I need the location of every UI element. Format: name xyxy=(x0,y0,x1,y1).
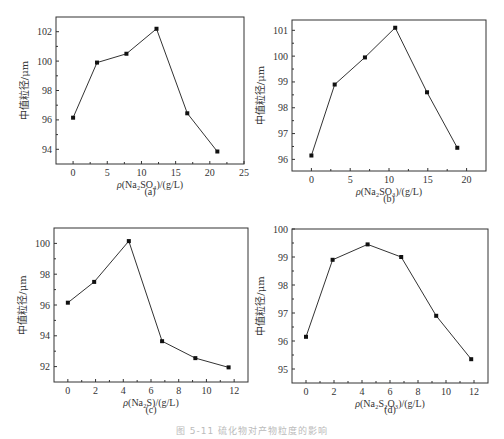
y-tick-label: 96 xyxy=(278,336,288,347)
plot-frame xyxy=(54,228,248,382)
data-point-marker xyxy=(215,150,219,154)
panel-subtitle: (d) xyxy=(384,404,396,416)
x-tick-label: 2 xyxy=(332,386,337,397)
y-tick-label: 101 xyxy=(273,25,288,36)
data-point-marker xyxy=(304,335,308,339)
y-tick-label: 98 xyxy=(278,280,288,291)
data-point-marker xyxy=(425,90,429,94)
y-tick-label: 98 xyxy=(42,85,52,96)
x-tick-label: 15 xyxy=(423,174,433,185)
y-tick-label: 100 xyxy=(273,51,288,62)
data-point-marker xyxy=(124,52,128,56)
panel-subtitle: (a) xyxy=(144,186,155,198)
plot-frame xyxy=(292,229,488,383)
x-tick-label: 6 xyxy=(388,386,393,397)
y-tick-label: 98 xyxy=(40,269,50,280)
y-axis-label: 中值粒径/μm xyxy=(18,60,30,120)
x-tick-label: 8 xyxy=(416,386,421,397)
x-tick-label: 10 xyxy=(136,167,146,178)
data-point-marker xyxy=(127,239,131,243)
data-point-marker xyxy=(193,356,197,360)
y-tick-label: 94 xyxy=(40,330,50,341)
data-point-marker xyxy=(366,242,370,246)
panel-subtitle: (c) xyxy=(145,404,156,416)
x-tick-label: 0 xyxy=(304,386,309,397)
y-tick-label: 100 xyxy=(37,56,52,67)
y-tick-label: 99 xyxy=(278,252,288,263)
data-point-marker xyxy=(185,111,189,115)
x-tick-label: 8 xyxy=(176,385,181,396)
data-point-marker xyxy=(333,83,337,87)
data-line xyxy=(68,241,229,367)
x-tick-label: 20 xyxy=(205,167,215,178)
data-line xyxy=(311,28,457,156)
x-tick-label: 10 xyxy=(384,174,394,185)
x-tick-label: 12 xyxy=(229,385,239,396)
y-tick-label: 100 xyxy=(273,224,288,235)
data-point-marker xyxy=(154,27,158,31)
data-point-marker xyxy=(71,116,75,120)
data-point-marker xyxy=(363,55,367,59)
x-tick-label: 12 xyxy=(469,386,479,397)
data-point-marker xyxy=(95,61,99,65)
y-tick-label: 97 xyxy=(278,128,288,139)
x-tick-label: 25 xyxy=(239,167,249,178)
y-tick-label: 99 xyxy=(278,76,288,87)
chart-panel-d: 0246810129596979899100中值粒径/μmρ(Na₂S₂O₃)/… xyxy=(254,224,488,417)
y-tick-label: 98 xyxy=(278,102,288,113)
x-tick-label: 10 xyxy=(441,386,451,397)
data-point-marker xyxy=(434,314,438,318)
figure-caption: 图 5-11 硫化物对产物粒度的影响 xyxy=(0,424,504,437)
x-tick-label: 20 xyxy=(462,174,472,185)
data-point-marker xyxy=(227,365,231,369)
y-tick-label: 97 xyxy=(278,308,288,319)
x-tick-label: 0 xyxy=(71,167,76,178)
x-tick-label: 4 xyxy=(360,386,365,397)
data-point-marker xyxy=(455,146,459,150)
data-point-marker xyxy=(309,154,313,158)
x-tick-label: 2 xyxy=(93,385,98,396)
y-tick-label: 94 xyxy=(42,144,52,155)
y-tick-label: 96 xyxy=(40,300,50,311)
x-tick-label: 6 xyxy=(149,385,154,396)
y-tick-label: 96 xyxy=(42,114,52,125)
chart-panel-c: 02468101292949698100中值粒径/μmρ(Na₂S)/(g/L)… xyxy=(16,228,248,416)
data-point-marker xyxy=(160,339,164,343)
y-tick-label: 92 xyxy=(40,361,50,372)
data-line xyxy=(73,29,217,152)
data-point-marker xyxy=(399,255,403,259)
y-axis-label: 中值粒径/μm xyxy=(254,276,266,336)
y-axis-label: 中值粒径/μm xyxy=(254,65,266,125)
y-tick-label: 96 xyxy=(278,154,288,165)
x-tick-label: 0 xyxy=(65,385,70,396)
x-tick-label: 5 xyxy=(105,167,110,178)
x-tick-label: 10 xyxy=(201,385,211,396)
data-point-marker xyxy=(66,301,70,305)
y-tick-label: 95 xyxy=(278,364,288,375)
y-axis-label: 中值粒径/μm xyxy=(16,275,28,335)
data-point-marker xyxy=(92,280,96,284)
y-tick-label: 102 xyxy=(37,26,52,37)
data-point-marker xyxy=(469,357,473,361)
panel-subtitle: (b) xyxy=(383,193,395,205)
y-tick-label: 100 xyxy=(35,238,50,249)
data-point-marker xyxy=(393,26,397,30)
plot-frame xyxy=(56,17,244,164)
data-point-marker xyxy=(331,258,335,262)
chart-panel-a: 0510152025949698100102中值粒径/μmρ(Na₂SO₄)/(… xyxy=(18,17,249,198)
x-tick-label: 0 xyxy=(309,174,314,185)
x-tick-label: 5 xyxy=(348,174,353,185)
x-tick-label: 15 xyxy=(171,167,181,178)
x-tick-label: 4 xyxy=(121,385,126,396)
chart-panel-b: 0510152096979899100101中值粒径/μmρ(Na₂SO₃)/(… xyxy=(254,20,486,205)
